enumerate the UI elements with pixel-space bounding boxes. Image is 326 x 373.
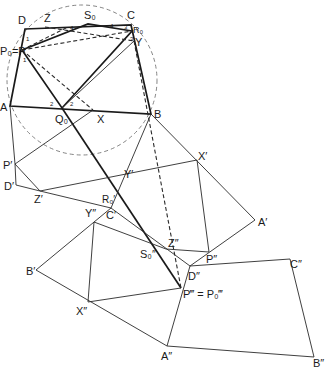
line-d1-z1 bbox=[16, 185, 40, 191]
label-x2: X″ bbox=[76, 305, 87, 317]
label-z: Z bbox=[44, 12, 51, 24]
label-b: B bbox=[154, 108, 161, 120]
line-x1-p2 bbox=[197, 160, 209, 252]
label-d: D bbox=[18, 14, 26, 26]
line-z2-p2 bbox=[166, 249, 209, 252]
label-p1: P′ bbox=[3, 159, 12, 171]
label-d2: D″ bbox=[188, 270, 200, 282]
line-p1-d1 bbox=[15, 164, 16, 185]
label-a2: A″ bbox=[161, 350, 172, 362]
line-a-p1 bbox=[10, 106, 15, 164]
label-s02: S₀″ bbox=[140, 248, 156, 260]
label-d1: D′ bbox=[4, 180, 14, 192]
label-p: P₀=P bbox=[0, 45, 26, 57]
line-p1-z1 bbox=[15, 164, 40, 191]
label-q0: Q₀ bbox=[55, 113, 68, 125]
label-y2: Y″ bbox=[85, 207, 96, 219]
label-p3: P‴ = P₀‴ bbox=[183, 288, 223, 300]
line-a1-d2 bbox=[190, 220, 255, 266]
line-q0-y bbox=[62, 41, 134, 108]
line-z1-c1 bbox=[40, 191, 111, 208]
label-b1: B′ bbox=[26, 265, 35, 277]
label-x: X bbox=[97, 113, 105, 125]
line-p-to-p-triple bbox=[62, 108, 181, 288]
angle-mark-1a: 1 bbox=[26, 36, 30, 42]
line-b-c1 bbox=[111, 114, 151, 208]
label-y1: Y′ bbox=[124, 168, 133, 180]
label-s0: S₀ bbox=[84, 9, 96, 21]
line-y2-x2 bbox=[88, 222, 94, 302]
geometry-diagram: D Z S₀ C R₀ Y P₀=P A Q₀ X B P′ D′ Z′ Y′ … bbox=[0, 0, 326, 373]
label-c: C bbox=[127, 9, 135, 21]
label-a1: A′ bbox=[258, 216, 267, 228]
label-p2: P″ bbox=[206, 253, 217, 265]
line-c1-b1 bbox=[36, 208, 111, 270]
label-y: Y bbox=[135, 36, 143, 48]
label-r0: R₀ bbox=[133, 25, 143, 35]
label-b2: B″ bbox=[313, 357, 324, 369]
label-c2: C″ bbox=[290, 258, 302, 270]
line-b1-a2 bbox=[36, 270, 167, 346]
angle-mark-1b: 1 bbox=[23, 57, 27, 63]
quad-p-s0-r0-q0 bbox=[22, 24, 132, 108]
label-z1: Z′ bbox=[34, 193, 43, 205]
line-y2-z2 bbox=[94, 222, 166, 249]
label-z2: Z″ bbox=[168, 237, 179, 249]
label-c1: C′ bbox=[106, 209, 116, 221]
angle-mark-2b: 2 bbox=[70, 101, 74, 107]
dashed-p-r0 bbox=[22, 31, 132, 50]
label-r01: R₀′ bbox=[102, 194, 115, 205]
line-z1-x1 bbox=[40, 160, 197, 191]
line-x2-p3 bbox=[88, 288, 181, 302]
label-x1: X′ bbox=[198, 150, 207, 162]
angle-mark-2a: 2 bbox=[50, 101, 54, 107]
label-a: A bbox=[0, 101, 8, 113]
